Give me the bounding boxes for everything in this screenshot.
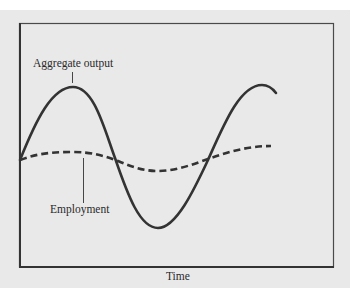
chart-plot — [0, 0, 353, 291]
employment-label: Employment — [50, 204, 109, 216]
x-axis-label: Time — [166, 271, 190, 283]
employment-line — [20, 146, 271, 171]
aggregate-output-label: Aggregate output — [33, 58, 113, 70]
